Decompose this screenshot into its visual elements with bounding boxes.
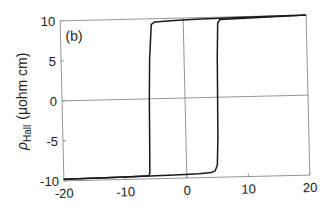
y-axis-symbol: ρ xyxy=(14,142,30,151)
x-tick-label: 20 xyxy=(303,180,318,195)
y-tick-labels: -10-50510 xyxy=(40,14,59,189)
y-tick-label: -5 xyxy=(46,134,58,149)
panel-label: (b) xyxy=(65,27,82,43)
y-tick-label: -10 xyxy=(40,174,59,189)
x-tick-label: 10 xyxy=(241,181,256,196)
y-tick-label: 10 xyxy=(41,14,55,29)
y-axis-label: ρHall(μohm cm) xyxy=(14,53,33,151)
x-tick-label: -10 xyxy=(116,184,135,199)
x-tick-label: 0 xyxy=(183,183,191,198)
y-axis-unit: (μohm cm) xyxy=(14,53,30,120)
y-axis-subscript: Hall xyxy=(22,125,33,142)
rotated-plot-group: (b) -20-1001020 xyxy=(51,15,318,201)
hall-resistivity-chart: (b) -20-1001020 -10-50510 ρHall(μohm cm) xyxy=(0,0,333,206)
y-tick-label: 0 xyxy=(50,94,57,109)
x-tick-labels: -20-1001020 xyxy=(55,180,318,201)
y-tick-label: 5 xyxy=(49,54,56,69)
